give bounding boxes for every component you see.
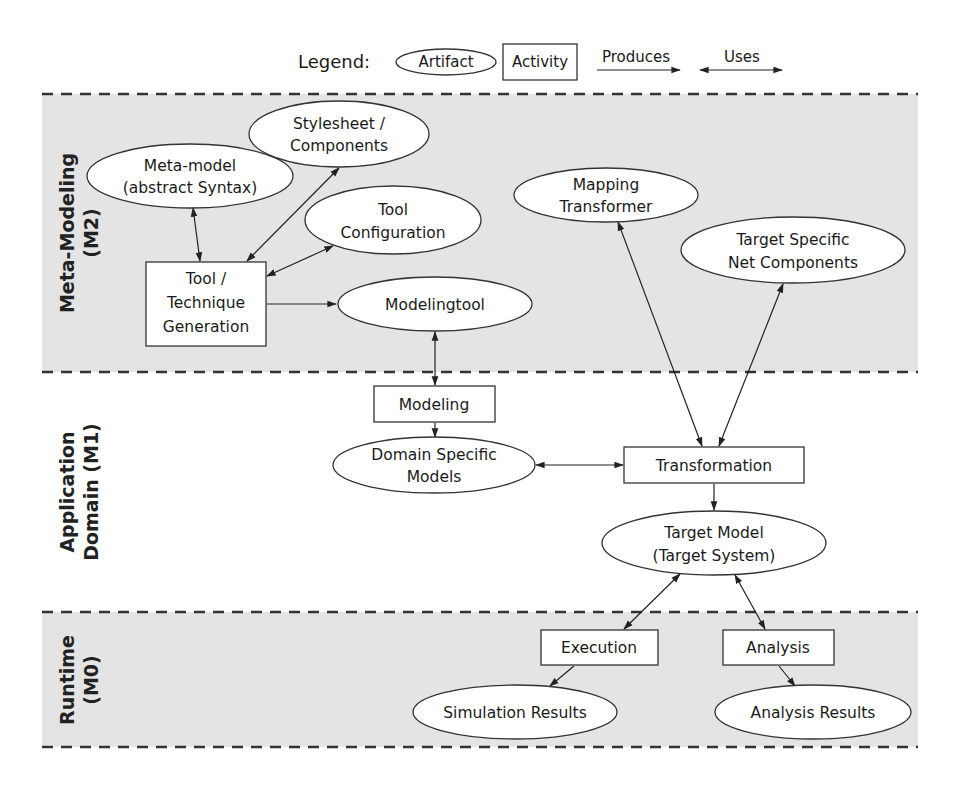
node-tool-generation: Tool / Technique Generation — [146, 262, 266, 346]
node-domain-models-line2: Models — [407, 468, 462, 486]
node-target-model-line1: Target Model — [663, 524, 763, 542]
node-meta-model-line1: Meta-model — [144, 157, 236, 175]
node-target-net-components: Target Specific Net Components — [681, 217, 905, 283]
band-label-m1-line1: Application — [56, 431, 78, 552]
node-tool-configuration: Tool Configuration — [305, 186, 481, 254]
node-analysis-results-line1: Analysis Results — [751, 704, 876, 722]
legend-artifact-label: Artifact — [418, 53, 473, 71]
node-target-net-components-line1: Target Specific — [735, 231, 849, 249]
node-domain-models-line1: Domain Specific — [371, 446, 496, 464]
node-target-model: Target Model (Target System) — [602, 511, 826, 575]
node-stylesheet: Stylesheet / Components — [249, 101, 429, 167]
node-tool-generation-line1: Tool / — [185, 270, 227, 288]
band-label-m2-line2: (M2) — [80, 208, 102, 258]
band-label-m0-line2: (M0) — [80, 655, 102, 705]
node-analysis: Analysis — [723, 630, 834, 665]
node-mapping-transformer: Mapping Transformer — [514, 168, 698, 222]
process-diagram: Meta-Modeling (M2) Application Domain (M… — [0, 0, 956, 791]
node-meta-model-line2: (abstract Syntax) — [123, 179, 258, 197]
node-modelingtool-line1: Modelingtool — [385, 296, 485, 314]
node-modeling: Modeling — [374, 386, 495, 422]
legend-uses-label: Uses — [724, 48, 760, 66]
band-label-m2-line1: Meta-Modeling — [56, 153, 78, 313]
legend-produces-label: Produces — [602, 48, 670, 66]
node-mapping-transformer-line1: Mapping — [573, 176, 640, 194]
node-execution: Execution — [541, 630, 658, 665]
node-transformation: Transformation — [624, 447, 804, 483]
node-transformation-line1: Transformation — [655, 457, 772, 475]
node-tool-generation-line2: Technique — [166, 294, 245, 312]
legend-activity-label: Activity — [512, 53, 568, 71]
node-domain-models: Domain Specific Models — [333, 437, 535, 493]
node-mapping-transformer-line2: Transformer — [558, 198, 653, 216]
node-meta-model: Meta-model (abstract Syntax) — [87, 144, 293, 208]
band-label-m1-line2: Domain (M1) — [80, 423, 102, 561]
legend-title: Legend: — [298, 51, 370, 72]
band-label-m0-line1: Runtime — [56, 635, 78, 725]
band-application-domain: Application Domain (M1) — [56, 423, 102, 561]
node-simulation-results-line1: Simulation Results — [443, 704, 586, 722]
node-tool-generation-line3: Generation — [163, 318, 249, 336]
node-modelingtool: Modelingtool — [338, 277, 532, 331]
node-modeling-line1: Modeling — [399, 396, 470, 414]
node-stylesheet-line2: Components — [290, 137, 388, 155]
node-tool-configuration-line1: Tool — [377, 201, 408, 219]
node-execution-line1: Execution — [561, 639, 637, 657]
node-target-net-components-line2: Net Components — [728, 254, 858, 272]
node-analysis-results: Analysis Results — [715, 685, 911, 739]
node-stylesheet-line1: Stylesheet / — [293, 115, 386, 133]
node-simulation-results: Simulation Results — [413, 685, 617, 739]
node-analysis-line1: Analysis — [746, 639, 810, 657]
node-tool-configuration-line2: Configuration — [340, 224, 445, 242]
legend: Legend: Artifact Activity Produces Uses — [298, 44, 782, 80]
node-target-model-line2: (Target System) — [653, 547, 776, 565]
